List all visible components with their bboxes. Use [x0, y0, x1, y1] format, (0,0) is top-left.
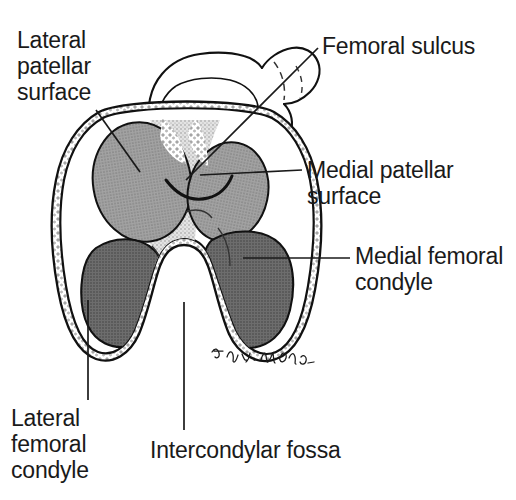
label-lateral-femoral-condyle: Lateral femoral condyle: [11, 405, 89, 483]
label-lateral-patellar-surface: Lateral patellar surface: [17, 27, 91, 105]
label-medial-femoral-condyle: Medial femoral condyle: [355, 243, 503, 295]
label-intercondylar-fossa: Intercondylar fossa: [150, 437, 341, 463]
label-femoral-sulcus: Femoral sulcus: [322, 33, 475, 59]
distal-femur-body: [52, 102, 322, 362]
label-medial-patellar-surface: Medial patellar surface: [307, 157, 454, 209]
